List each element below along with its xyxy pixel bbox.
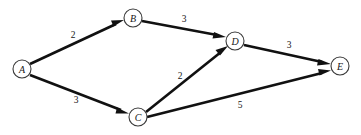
node-c[interactable]: C	[129, 108, 147, 126]
edge-d-e-line	[244, 45, 322, 62]
graph-figure: A B C D E 2 3 3 2 5 3	[0, 0, 361, 135]
edge-a-c[interactable]	[30, 75, 129, 114]
node-a[interactable]: A	[13, 60, 31, 78]
edge-c-e-line	[147, 73, 322, 117]
node-e-label: E	[336, 61, 343, 72]
edge-weight-a-c: 3	[74, 95, 79, 105]
edge-d-e-arrowhead	[317, 59, 331, 66]
edge-a-c-arrowhead	[116, 108, 130, 114]
edge-b-d-line	[142, 21, 217, 35]
node-b[interactable]: B	[124, 9, 142, 27]
edge-c-e-arrowhead	[318, 69, 331, 76]
edge-b-d-arrowhead	[213, 32, 227, 39]
edge-a-b[interactable]	[30, 20, 124, 64]
edge-c-d[interactable]	[146, 46, 228, 112]
node-d-label: D	[230, 36, 239, 47]
node-a-label: A	[18, 64, 26, 75]
node-d[interactable]: D	[226, 32, 244, 50]
edge-weight-c-e: 5	[238, 100, 243, 110]
node-e[interactable]: E	[331, 57, 349, 75]
node-b-label: B	[130, 13, 136, 24]
edge-weight-d-e: 3	[287, 40, 292, 50]
edge-weight-c-d: 2	[178, 71, 183, 81]
edge-weight-b-d: 3	[182, 14, 187, 24]
node-c-label: C	[135, 112, 142, 123]
edge-weight-a-b: 2	[71, 30, 76, 40]
graph-canvas: A B C D E 2 3 3 2 5 3	[0, 0, 361, 135]
edge-c-d-line	[146, 52, 221, 112]
